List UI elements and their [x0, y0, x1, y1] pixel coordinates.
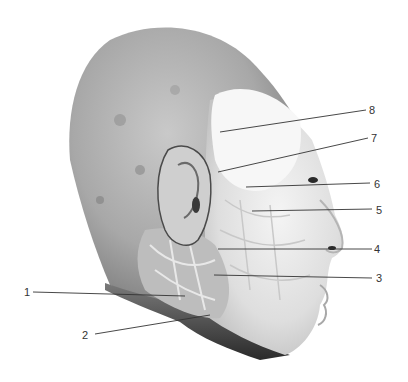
label-2: 2	[82, 329, 88, 341]
eye	[308, 177, 318, 183]
label-3: 3	[376, 272, 382, 284]
label-6: 6	[374, 178, 380, 190]
label-4: 4	[374, 243, 380, 255]
label-5: 5	[376, 204, 382, 216]
ear	[158, 146, 211, 245]
head-illustration	[0, 0, 408, 382]
label-1: 1	[24, 286, 30, 298]
label-7: 7	[371, 132, 377, 144]
anatomical-figure: 12345678	[0, 0, 408, 382]
label-8: 8	[369, 104, 375, 116]
